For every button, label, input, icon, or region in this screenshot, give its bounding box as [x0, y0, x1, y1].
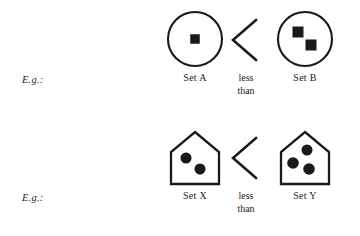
- set-y-figure: [274, 126, 336, 188]
- set-x-figure: [164, 126, 226, 188]
- set-b-label: Set B: [270, 72, 340, 83]
- less-than-line-2: than: [229, 203, 263, 216]
- set-x-container-pentagon: [171, 132, 219, 184]
- set-x-element-dot-2: [195, 164, 206, 175]
- less-than-text-row1: less than: [229, 72, 263, 97]
- set-a-label: Set A: [160, 72, 230, 83]
- set-x-label: Set X: [160, 190, 230, 201]
- example-row-circles: E.g.: Set A less than Set: [0, 0, 360, 118]
- less-than-line-2: than: [229, 85, 263, 98]
- less-than-text-row2: less than: [229, 190, 263, 215]
- less-than-symbol-row2: [228, 135, 262, 181]
- set-b-element-square-1: [293, 27, 304, 38]
- example-prefix-label: E.g.:: [22, 74, 43, 85]
- example-row-pentagons: E.g.: Set X less than: [0, 118, 360, 236]
- less-than-symbol-row1: [228, 17, 262, 63]
- set-y-label: Set Y: [270, 190, 340, 201]
- set-b-figure: [274, 8, 336, 70]
- figure-page: E.g.: Set A less than Set: [0, 0, 360, 236]
- set-b-element-square-2: [306, 40, 317, 51]
- set-y-element-dot-1: [302, 145, 313, 156]
- set-a-element-square-1: [190, 34, 200, 44]
- set-y-element-dot-3: [303, 163, 315, 175]
- less-than-line-1: less: [229, 190, 263, 203]
- set-x-element-dot-1: [181, 153, 192, 164]
- set-b-container-circle: [278, 12, 332, 66]
- set-y-container-pentagon: [281, 132, 329, 184]
- less-than-line-1: less: [229, 72, 263, 85]
- set-y-element-dot-2: [287, 157, 299, 169]
- example-prefix-label: E.g.:: [22, 192, 43, 203]
- set-a-figure: [164, 8, 226, 70]
